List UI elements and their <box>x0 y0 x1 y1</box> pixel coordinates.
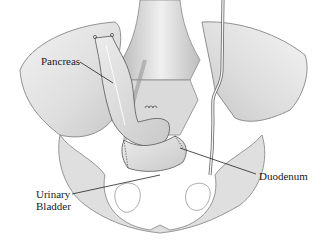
label-duodenum: Duodenum <box>259 170 308 182</box>
anatomy-illustration: Pancreas Duodenum Urinary Bladder <box>0 0 323 244</box>
left-obturator-foramen <box>115 183 140 212</box>
label-bladder-line1: Urinary <box>36 188 70 200</box>
right-iliac-bone <box>202 22 307 121</box>
label-pancreas: Pancreas <box>41 55 80 67</box>
label-bladder-line2: Bladder <box>36 200 71 212</box>
lumbar-spine <box>122 0 200 80</box>
right-obturator-foramen <box>186 183 211 210</box>
